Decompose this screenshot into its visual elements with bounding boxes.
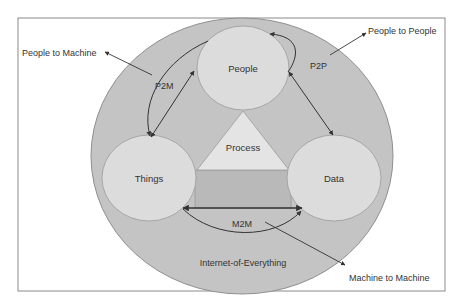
ioe-diagram: People Things Data Process P2M P2P M2M I… xyxy=(0,0,460,306)
people-to-people-label: People to People xyxy=(368,26,437,36)
machine-to-machine-label: Machine to Machine xyxy=(349,273,430,283)
process-label: Process xyxy=(226,142,261,153)
m2m-label: M2M xyxy=(232,219,252,229)
data-label: Data xyxy=(324,173,345,184)
people-label: People xyxy=(228,63,258,74)
ioe-title: Internet-of-Everything xyxy=(200,258,287,268)
people-to-machine-label: People to Machine xyxy=(22,48,97,58)
things-label: Things xyxy=(135,173,164,184)
p2p-label: P2P xyxy=(310,61,327,71)
process-base-rect xyxy=(195,170,291,208)
p2m-label: P2M xyxy=(155,81,174,91)
